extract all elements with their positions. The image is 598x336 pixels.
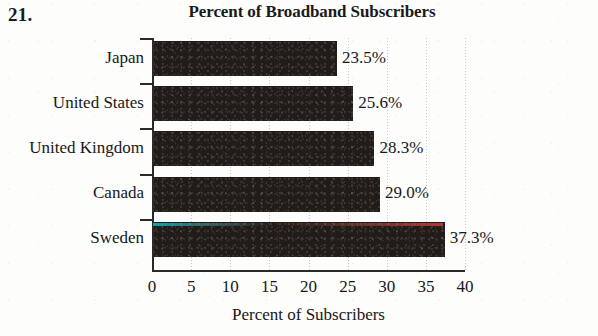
bar bbox=[153, 222, 445, 257]
value-label: 28.3% bbox=[379, 138, 423, 158]
chart-title: Percent of Broadband Subscribers bbox=[152, 2, 472, 22]
bar bbox=[153, 41, 337, 76]
x-tick-label: 0 bbox=[132, 277, 172, 297]
x-tick-label: 15 bbox=[249, 277, 289, 297]
x-tick-label: 5 bbox=[171, 277, 211, 297]
value-label: 29.0% bbox=[385, 183, 429, 203]
x-tick-label: 25 bbox=[328, 277, 368, 297]
exercise-number: 21. bbox=[8, 4, 32, 26]
bar bbox=[153, 131, 374, 166]
category-label: Canada bbox=[0, 183, 144, 203]
x-axis-line bbox=[152, 270, 465, 272]
category-label: Japan bbox=[0, 48, 144, 68]
value-label: 25.6% bbox=[358, 93, 402, 113]
bar bbox=[153, 177, 380, 212]
x-tick-label: 40 bbox=[445, 277, 485, 297]
y-axis-line bbox=[152, 38, 154, 272]
value-label: 37.3% bbox=[450, 228, 494, 248]
category-label: United Kingdom bbox=[0, 138, 144, 158]
x-axis-title: Percent of Subscribers bbox=[152, 305, 465, 325]
x-tick-label: 30 bbox=[367, 277, 407, 297]
x-tick-label: 10 bbox=[210, 277, 250, 297]
value-label: 23.5% bbox=[342, 48, 386, 68]
x-tick-label: 20 bbox=[289, 277, 329, 297]
category-label: United States bbox=[0, 93, 144, 113]
category-label: Sweden bbox=[0, 228, 144, 248]
bar bbox=[153, 86, 353, 121]
x-tick-label: 35 bbox=[406, 277, 446, 297]
scanned-page: 21. Percent of Broadband Subscribers Jap… bbox=[0, 0, 598, 336]
